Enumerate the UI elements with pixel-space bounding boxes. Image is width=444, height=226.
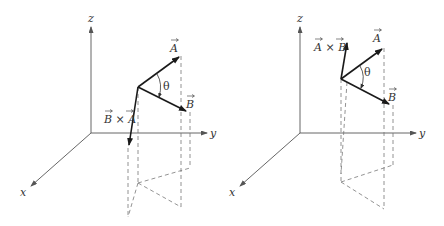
svg-text:B: B	[387, 91, 396, 104]
angle-theta-label: θ	[163, 80, 170, 93]
base-vertex-to-cross	[128, 183, 138, 217]
left-projections	[128, 56, 190, 217]
x-axis	[31, 133, 91, 186]
vector-b-label: B	[185, 95, 195, 112]
x-axis-label: x	[20, 186, 27, 199]
y-axis-label: y	[418, 127, 426, 140]
vector-b-arrow	[341, 79, 389, 104]
vector-b-arrow	[138, 87, 186, 111]
base-vertex-to-a	[138, 183, 181, 207]
svg-text:A: A	[169, 42, 178, 55]
cross-product-diagrams: z y x θ A	[0, 0, 444, 226]
svg-text:B: B	[185, 98, 194, 111]
svg-text:A: A	[372, 32, 381, 45]
right-diagram: z y x θ A B	[229, 12, 426, 209]
y-axis-label: y	[209, 127, 217, 140]
svg-text:B × A: B × A	[103, 113, 136, 126]
angle-arc	[360, 66, 363, 88]
x-axis-label: x	[229, 186, 236, 199]
angle-theta-label: θ	[364, 66, 371, 79]
vector-b-label: B	[387, 88, 397, 105]
base-vertex-to-b	[138, 168, 190, 183]
vector-a-arrow	[138, 57, 179, 87]
x-axis	[240, 133, 300, 186]
z-axis-label: z	[87, 12, 94, 25]
base-vertex-to-b	[341, 165, 393, 182]
svg-text:A × B: A × B	[313, 41, 346, 54]
vector-a-arrow	[341, 49, 382, 79]
cross-base-drop	[341, 82, 347, 174]
base-vertex-to-a	[341, 182, 384, 209]
angle-arc	[157, 74, 161, 97]
left-diagram: z y x θ A	[20, 12, 217, 217]
vector-a-label: A	[169, 39, 179, 56]
z-axis-label: z	[296, 12, 303, 25]
vector-a-cross-b-label: A × B	[313, 38, 346, 55]
vector-b-cross-a-label: B × A	[103, 110, 136, 127]
vector-a-label: A	[372, 29, 382, 46]
